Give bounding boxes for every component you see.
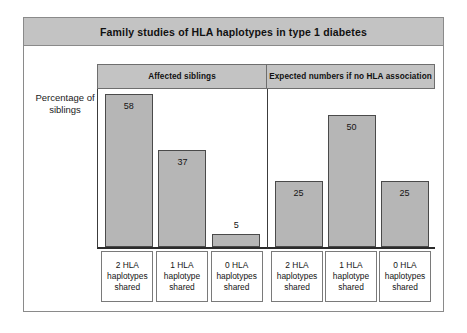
bar-group-affected-siblings: 58 37 5 (98, 89, 267, 247)
panel-header-affected-siblings: Affected siblings (97, 64, 267, 89)
category-label-1-hla: 1 HLA haplotype shared (156, 251, 208, 302)
bar-value-label: 58 (106, 101, 152, 111)
plot-affected-siblings: 58 37 5 (97, 89, 267, 249)
figure-title-band: Family studies of HLA haplotypes in type… (24, 18, 443, 46)
category-label-2-hla: 2 HLA haplotypes shared (271, 251, 323, 302)
bar-expected-1-hla[interactable]: 50 (328, 115, 376, 247)
bar-affected-2-hla[interactable]: 58 (105, 94, 153, 247)
chart-panel-expected-numbers: Expected numbers if no HLA association 2… (267, 64, 435, 302)
bar-value-label: 25 (276, 188, 322, 198)
bar-value-label: 37 (159, 157, 205, 167)
figure-title: Family studies of HLA haplotypes in type… (100, 26, 367, 38)
bar-value-label: 5 (213, 220, 259, 230)
panel-header-label: Expected numbers if no HLA association (269, 72, 432, 81)
panel-header-label: Affected siblings (148, 72, 216, 81)
bar-slot: 25 (275, 89, 323, 247)
chart-panel-affected-siblings: Affected siblings 58 37 (97, 64, 267, 302)
bar-value-label: 50 (329, 122, 375, 132)
bar-slot: 25 (381, 89, 429, 247)
category-label-2-hla: 2 HLA haplotypes shared (101, 251, 153, 302)
category-row-expected-numbers: 2 HLA haplotypes shared 1 HLA haplotype … (267, 251, 435, 302)
y-axis-label: Percentage of siblings (32, 92, 98, 116)
bar-slot: 50 (328, 89, 376, 247)
category-label-0-hla: 0 HLA haplotypes shared (211, 251, 263, 302)
chart-area: Affected siblings 58 37 (97, 64, 435, 302)
bar-group-expected-numbers: 25 50 25 (268, 89, 435, 247)
bar-affected-0-hla[interactable]: 5 (212, 234, 260, 247)
bar-affected-1-hla[interactable]: 37 (158, 150, 206, 247)
plot-expected-numbers: 25 50 25 (267, 89, 435, 249)
category-label-0-hla: 0 HLA haplotypes shared (379, 251, 431, 302)
bar-expected-0-hla[interactable]: 25 (381, 181, 429, 247)
category-row-affected-siblings: 2 HLA haplotypes shared 1 HLA haplotype … (97, 251, 267, 302)
category-label-1-hla: 1 HLA haplotype shared (325, 251, 377, 302)
bar-value-label: 25 (382, 188, 428, 198)
bar-slot: 37 (158, 89, 206, 247)
bar-slot: 58 (105, 89, 153, 247)
panel-header-expected-numbers: Expected numbers if no HLA association (267, 64, 435, 89)
figure-panel: Family studies of HLA haplotypes in type… (23, 17, 444, 312)
bar-slot: 5 (212, 89, 260, 247)
bar-expected-2-hla[interactable]: 25 (275, 181, 323, 247)
